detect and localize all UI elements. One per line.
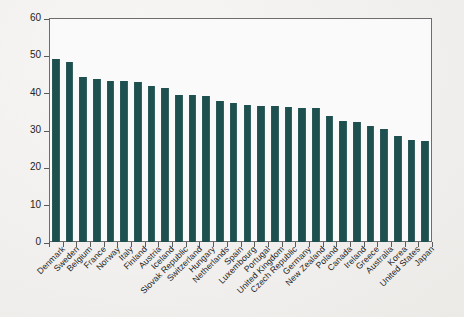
bar [244, 105, 252, 242]
bar [175, 95, 183, 242]
bar [107, 81, 115, 242]
bar [353, 122, 361, 242]
y-axis-tick: 10 [0, 205, 49, 206]
bar [79, 77, 87, 242]
bar [216, 101, 224, 242]
bar [312, 108, 320, 242]
bar [298, 108, 306, 242]
y-axis-tick-label: 10 [30, 199, 41, 210]
y-axis-tick: 30 [0, 130, 49, 131]
bar [285, 107, 293, 242]
bar [161, 88, 169, 242]
bar [120, 81, 128, 242]
bar [339, 121, 347, 242]
y-axis-tick-label: 20 [30, 161, 41, 172]
bar [66, 62, 74, 242]
bar [148, 86, 156, 242]
bar [380, 129, 388, 242]
bar [326, 116, 334, 242]
y-axis-tick-label: 40 [30, 87, 41, 98]
y-axis-tick-label: 60 [30, 12, 41, 23]
y-axis-tick-label: 30 [30, 124, 41, 135]
y-axis-tick: 20 [0, 167, 49, 168]
y-axis-tick: 0 [0, 242, 49, 243]
bar [394, 136, 402, 242]
bar [271, 106, 279, 242]
bar [257, 106, 265, 242]
bar [367, 126, 375, 242]
y-axis-tick: 50 [0, 55, 49, 56]
y-axis-tick: 60 [0, 18, 49, 19]
bar-chart-figure: Percent of GDP 0102030405060 DenmarkSwed… [0, 0, 464, 317]
bar [421, 141, 429, 242]
bar-series [49, 18, 432, 242]
bar [202, 96, 210, 242]
y-axis-tick-label: 50 [30, 49, 41, 60]
y-axis-tick: 40 [0, 93, 49, 94]
bar [93, 79, 101, 242]
bar [189, 95, 197, 242]
bar [408, 140, 416, 242]
bar [134, 82, 142, 242]
bar [52, 59, 60, 242]
bar [230, 103, 238, 242]
x-axis-labels: DenmarkSwedenBelgiumFranceNorwayItalyFin… [49, 244, 432, 317]
y-axis-tick-label: 0 [35, 236, 41, 247]
